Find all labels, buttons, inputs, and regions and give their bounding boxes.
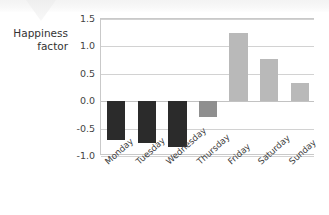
- gridline-0_5: [101, 74, 314, 75]
- bar-saturday: [260, 59, 278, 101]
- y-axis-title: Happiness factor: [2, 27, 68, 52]
- y-tick-label: -1.0: [65, 150, 95, 161]
- y-tick-label: 1.0: [65, 40, 95, 51]
- y-tick-label: -0.5: [65, 122, 95, 133]
- bar-friday: [229, 33, 247, 101]
- y-tick-label: 1.5: [65, 13, 95, 24]
- bar-tuesday: [138, 101, 156, 143]
- bar-thursday: [199, 101, 217, 116]
- gridline-1_5: [101, 19, 314, 20]
- bar-monday: [107, 101, 125, 139]
- y-tick-label: 0.0: [65, 95, 95, 106]
- y-tick-label: 0.5: [65, 67, 95, 78]
- bar-sunday: [291, 83, 309, 101]
- gridline-1: [101, 46, 314, 47]
- gridline-neg0_5: [101, 129, 314, 130]
